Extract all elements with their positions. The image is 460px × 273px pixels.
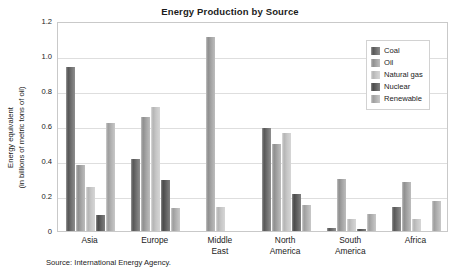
bar	[161, 180, 170, 231]
bar	[76, 165, 85, 232]
x-axis-tick-label-line: Europe	[122, 235, 187, 246]
bar	[402, 182, 411, 231]
y-axis-title-line-2: (in billions of metric tons of oil)	[16, 38, 27, 238]
bar	[302, 205, 311, 231]
legend-label: Coal	[384, 46, 400, 55]
bar	[392, 207, 401, 232]
x-axis-tick-label: MiddleEast	[187, 235, 252, 256]
bar	[337, 179, 346, 232]
x-axis-tick-label-line: North	[253, 235, 318, 246]
x-axis-tick-label: Asia	[57, 235, 122, 246]
bar-group	[196, 23, 245, 231]
bar-group	[131, 23, 180, 231]
bar	[262, 128, 271, 231]
bar	[96, 215, 105, 231]
bar-group	[66, 23, 115, 231]
x-axis-tick-label: NorthAmerica	[253, 235, 318, 256]
x-axis-tick-label-line: America	[253, 246, 318, 257]
legend-swatch-icon	[371, 71, 380, 79]
bar	[86, 187, 95, 231]
chart-legend: CoalOilNatural gasNuclearRenewable	[366, 40, 430, 110]
bar	[171, 208, 180, 231]
bar	[347, 219, 356, 231]
legend-item: Nuclear	[371, 81, 423, 92]
bar	[327, 228, 336, 232]
legend-item: Oil	[371, 57, 423, 68]
legend-item: Natural gas	[371, 69, 423, 80]
y-axis-title-line-1: Energy equivalent	[6, 38, 17, 238]
legend-swatch-icon	[371, 83, 380, 91]
legend-item: Renewable	[371, 93, 423, 104]
chart-title: Energy Production by Source	[0, 6, 460, 17]
bar-group	[262, 23, 311, 231]
legend-label: Nuclear	[384, 82, 410, 91]
bar	[216, 207, 225, 232]
legend-swatch-icon	[371, 47, 380, 55]
source-note: Source: International Energy Agency.	[46, 258, 171, 267]
legend-item: Coal	[371, 45, 423, 56]
legend-label: Renewable	[384, 94, 422, 103]
x-axis-tick-label-line: South	[318, 235, 383, 246]
bar	[367, 214, 376, 232]
bar	[131, 159, 140, 231]
legend-swatch-icon	[371, 59, 380, 67]
legend-label: Natural gas	[384, 70, 423, 79]
x-axis-tick-label-line: Asia	[57, 235, 122, 246]
x-axis-tick-label: SouthAmerica	[318, 235, 383, 256]
legend-label: Oil	[384, 58, 393, 67]
bar	[357, 229, 366, 231]
x-axis-tick-label-line: Middle	[187, 235, 252, 246]
bar	[432, 201, 441, 231]
bar	[151, 107, 160, 231]
legend-swatch-icon	[371, 95, 380, 103]
chart-figure: Energy Production by Source Energy equiv…	[0, 0, 460, 273]
x-axis-tick-label-line: East	[187, 246, 252, 257]
x-axis-tick-label-line: Africa	[383, 235, 448, 246]
y-axis-title: Energy equivalent (in billions of metric…	[6, 38, 27, 238]
x-axis-tick-label: Europe	[122, 235, 187, 246]
bar	[272, 144, 281, 232]
bar	[66, 67, 75, 232]
y-axis-tick-label: 1.2	[12, 17, 52, 26]
x-axis-tick-label: Africa	[383, 235, 448, 246]
bar	[292, 194, 301, 231]
bar	[106, 123, 115, 232]
bar	[206, 37, 215, 231]
bar	[412, 219, 421, 231]
bar	[141, 117, 150, 231]
x-axis-tick-label-line: America	[318, 246, 383, 257]
bar	[282, 133, 291, 231]
